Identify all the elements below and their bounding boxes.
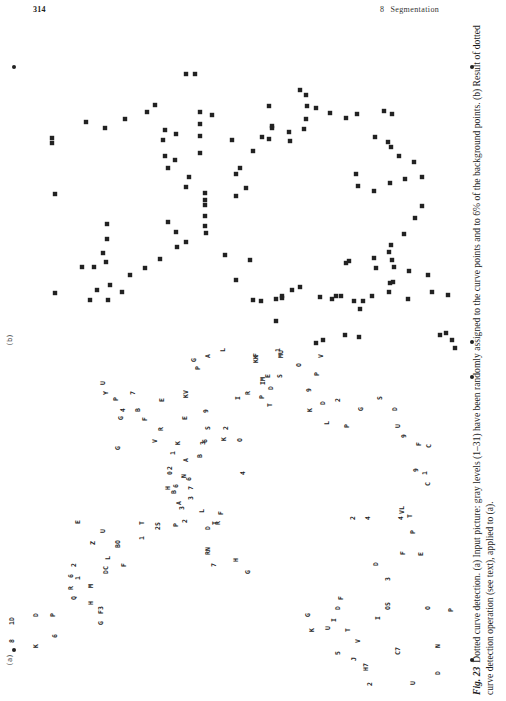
input-point-label: 3 [178,506,186,510]
curve-point-mark [412,160,416,164]
curve-point-mark [438,333,442,337]
input-point-label: K [306,408,314,412]
input-point-label: Y [102,391,110,395]
curve-point-mark [339,294,343,298]
input-point-label: E [181,416,189,420]
input-point-label: T [266,403,274,407]
input-point-label: G [190,358,198,362]
input-point-label: U [394,424,402,428]
input-point-label: G [244,570,252,574]
curve-point-mark [370,294,374,298]
input-point-label: S [276,374,284,378]
input-point-label: 3 [384,577,392,581]
curve-point-mark [290,288,294,292]
figure-graphic: 81DKDP6QR6HF3G12MDCLBOFZUET12S32PNA73H20… [0,0,506,701]
curve-point-mark [373,135,377,139]
curve-point-mark [123,117,127,121]
curve-point-mark [390,258,394,262]
corner-mark [12,648,16,652]
curve-point-mark [274,319,278,323]
curve-point-mark [328,111,332,115]
curve-point-mark [426,273,430,277]
curve-point-mark [450,338,454,342]
input-point-label: 2 [349,516,357,520]
curve-point-mark [234,278,238,282]
input-point-label: R [214,521,222,525]
curve-point-mark [260,135,264,139]
input-point-label: 9 [400,434,408,438]
curve-point-mark [413,216,417,220]
curve-point-mark [184,72,188,76]
input-point-label: H [87,601,95,605]
input-point-label: L [219,348,227,352]
caption-text: Dotted curve detection. (a) Input pictur… [471,25,495,695]
curve-point-mark [251,298,255,302]
curve-point-mark [95,288,99,292]
input-point-label: H7 [362,663,370,671]
curve-point-mark [358,307,362,311]
curve-point-mark [175,245,179,249]
curve-point-mark [84,120,88,124]
input-point-label: M [87,584,95,588]
figure-number: Fig. 23 [471,667,482,695]
curve-point-mark [361,299,365,303]
curve-point-mark [287,130,291,134]
curve-point-mark [88,298,92,302]
curve-point-mark [251,149,255,153]
curve-point-mark [105,222,109,226]
input-point-label: 2 [334,398,342,402]
input-point-label: E [158,398,166,402]
input-point-label: G [117,416,125,420]
input-point-label: V [354,639,362,643]
curve-point-mark [198,151,202,155]
input-point-label: BO [114,540,122,548]
curve-point-mark [106,298,110,302]
input-point-label: P [409,530,417,534]
input-point-label: D [204,526,212,530]
curve-point-mark [372,256,376,260]
input-point-label: A [182,458,190,462]
curve-point-mark [304,93,308,97]
input-point-label: 1 [169,451,177,455]
input-point-label: 2S [154,522,162,530]
input-point-label: H [164,486,172,490]
curve-point-mark [174,132,178,136]
input-point-label: P [343,424,351,428]
curve-point-mark [390,112,394,116]
curve-point-mark [355,112,359,116]
input-point-label: 7 [210,563,218,567]
curve-point-mark [397,154,401,158]
curve-point-mark [203,224,207,228]
curve-point-mark [420,175,424,179]
input-point-label: D [372,562,380,566]
curve-point-mark [321,338,325,342]
input-point-label: S [204,426,212,430]
curve-point-mark [198,122,202,126]
input-point-label: KK [252,355,260,363]
curve-point-mark [356,184,360,188]
input-point-label: 5 [334,651,342,655]
curve-point-mark [298,285,302,289]
input-point-label: RN [204,547,212,555]
input-point-label: J [350,657,358,661]
curve-point-mark [354,172,358,176]
input-point-label: 6 [185,477,193,481]
figure-23: 81DKDP6QR6HF3G12MDCLBOFZUET12S32PNA73H20… [0,0,506,701]
input-point-label: T [406,514,414,518]
curve-point-mark [357,335,361,339]
input-point-label: P [194,366,202,370]
input-point-label: Z [89,541,97,545]
curve-point-mark [259,299,263,303]
input-point-label: P [49,613,57,617]
input-point-label: D [32,613,40,617]
curve-point-mark [344,116,348,120]
input-point-label: 2 [366,682,374,686]
curve-point-mark [158,257,162,261]
input-point-label: 7 [129,391,137,395]
curve-point-mark [163,154,167,158]
input-point-label: 4 [239,471,247,475]
input-point-label: U [99,529,107,533]
input-point-label: 6 [201,439,209,443]
curve-point-mark [267,104,271,108]
curve-point-mark [330,297,334,301]
